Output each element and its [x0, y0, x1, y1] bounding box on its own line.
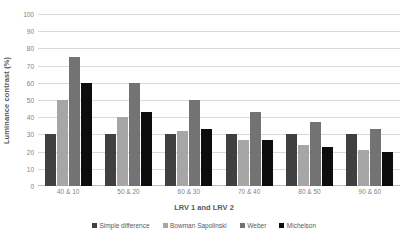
y-axis-tick-30: 30 — [27, 131, 34, 138]
bar — [382, 152, 393, 186]
y-axis-tick-80: 80 — [27, 45, 34, 52]
bar — [129, 83, 140, 186]
bar — [45, 134, 56, 186]
bar — [105, 134, 116, 186]
y-axis-tick-labels: 0102030405060708090100 — [16, 14, 36, 186]
bar — [165, 134, 176, 186]
y-axis-tick-40: 40 — [27, 114, 34, 121]
x-axis-label: 80 & 50 — [279, 188, 339, 200]
legend-label: Simple difference — [99, 222, 149, 229]
legend-label: Weber — [247, 222, 266, 229]
bar — [286, 134, 297, 186]
bar-group — [279, 14, 339, 186]
x-axis-label: 60 & 30 — [159, 188, 219, 200]
legend-item[interactable]: Weber — [240, 222, 267, 229]
legend-swatch-icon — [279, 223, 284, 228]
bar — [177, 131, 188, 186]
bar-group — [219, 14, 279, 186]
y-axis-title: Luminance contrast (%) — [0, 0, 14, 200]
x-axis-label: 40 & 10 — [38, 188, 98, 200]
plot-area — [38, 14, 400, 186]
y-axis-tick-20: 20 — [27, 148, 34, 155]
bar-groups — [38, 14, 400, 186]
x-axis-label: 50 & 20 — [98, 188, 158, 200]
bar-group — [159, 14, 219, 186]
bar — [69, 57, 80, 186]
legend-swatch-icon — [240, 223, 245, 228]
legend-swatch-icon — [92, 223, 97, 228]
bar — [189, 100, 200, 186]
legend-label: Bowman Sapolinski — [170, 222, 227, 229]
y-axis-tick-50: 50 — [27, 97, 34, 104]
bar-group — [98, 14, 158, 186]
bar — [298, 145, 309, 186]
bar — [117, 117, 128, 186]
legend-label: Michelson — [287, 222, 316, 229]
chart-legend: Simple differenceBowman SapolinskiWeberM… — [0, 222, 408, 229]
y-axis-title-label: Luminance contrast (%) — [3, 56, 12, 143]
bar — [57, 100, 68, 186]
legend-item[interactable]: Simple difference — [92, 222, 150, 229]
bar-chart: Luminance contrast (%) 01020304050607080… — [0, 0, 408, 241]
bar — [322, 147, 333, 186]
bar-group — [38, 14, 98, 186]
y-axis-tick-70: 70 — [27, 62, 34, 69]
x-axis-category-labels: 40 & 1050 & 2060 & 3070 & 4080 & 5090 & … — [38, 188, 400, 200]
bar — [358, 150, 369, 186]
y-axis-tick-90: 90 — [27, 28, 34, 35]
y-axis-tick-10: 10 — [27, 165, 34, 172]
bar-group — [340, 14, 400, 186]
bar — [81, 83, 92, 186]
y-axis-tick-100: 100 — [23, 11, 34, 18]
bar — [346, 134, 357, 186]
legend-item[interactable]: Bowman Sapolinski — [163, 222, 227, 229]
x-axis-title: LRV 1 and LRV 2 — [0, 203, 408, 212]
bar — [250, 112, 261, 186]
y-axis-tick-60: 60 — [27, 79, 34, 86]
y-axis-tick-0: 0 — [30, 183, 34, 190]
bar — [201, 129, 212, 186]
bar — [141, 112, 152, 186]
legend-item[interactable]: Michelson — [279, 222, 316, 229]
bar — [262, 140, 273, 186]
legend-swatch-icon — [163, 223, 168, 228]
bar — [226, 134, 237, 186]
bar — [310, 122, 321, 186]
x-axis-label: 70 & 40 — [219, 188, 279, 200]
x-axis-label: 90 & 60 — [340, 188, 400, 200]
bar — [238, 140, 249, 186]
bar — [370, 129, 381, 186]
